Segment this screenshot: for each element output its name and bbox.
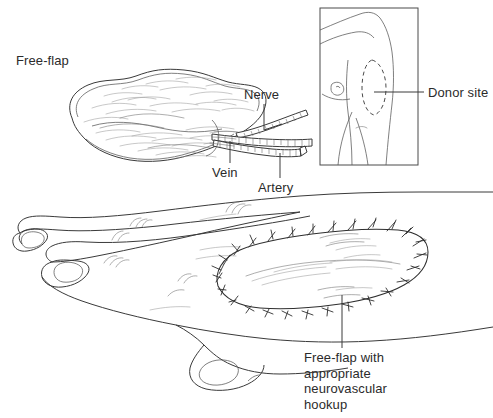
vascular-pedicle-graphic [206,110,312,157]
donor-site-inset [320,8,418,165]
flap-suture-outline [217,229,428,309]
label-free-flap: Free-flap [16,53,69,69]
nerve-strand [236,110,308,138]
label-donor-site: Donor site [428,85,488,101]
label-nerve: Nerve [244,87,279,103]
donor-site-oval [362,60,386,115]
label-artery: Artery [258,180,293,196]
label-vein: Vein [212,165,238,181]
figure-root: Free-flap Nerve Vein Artery Donor site F… [0,0,493,418]
label-caption-free-flap-hookup: Free-flap with appropriate neurovascular… [304,350,424,412]
sutured-flap-graphic [212,218,428,319]
